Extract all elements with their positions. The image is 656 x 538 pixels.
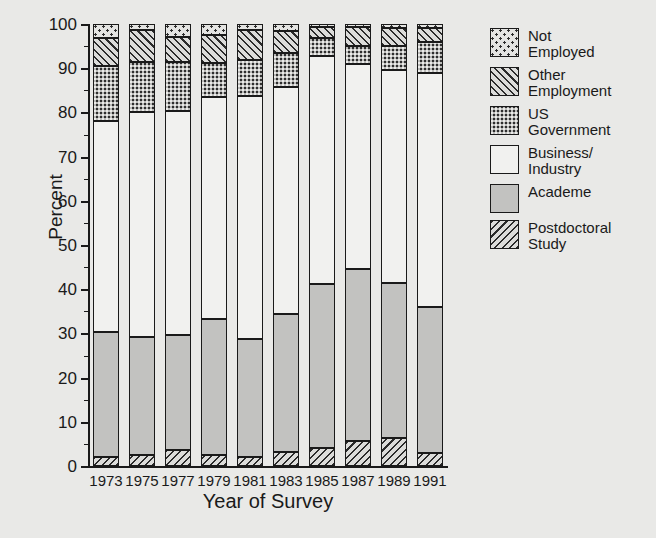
- bar-segment[interactable]: [129, 455, 155, 466]
- y-tick-major: [81, 466, 88, 468]
- bar-segment[interactable]: [381, 283, 407, 438]
- legend-label: Postdoctoral Study: [528, 220, 611, 252]
- bar-segment[interactable]: [417, 73, 443, 307]
- y-tick-major: [81, 201, 88, 203]
- legend-item[interactable]: Other Employment: [490, 67, 650, 99]
- bar-segment[interactable]: [345, 441, 371, 466]
- bar-segment[interactable]: [309, 27, 335, 38]
- bar-segment[interactable]: [129, 112, 155, 337]
- bar-segment[interactable]: [201, 319, 227, 456]
- bar-segment[interactable]: [237, 24, 263, 30]
- y-tick-label: 10: [58, 413, 77, 430]
- legend-label: Business/ Industry: [528, 145, 593, 177]
- bar-1975[interactable]: [129, 24, 155, 466]
- bar-segment[interactable]: [417, 307, 443, 453]
- y-tick-label: 0: [68, 458, 77, 475]
- legend-swatch-solid-gray: [490, 184, 519, 213]
- bar-segment[interactable]: [381, 46, 407, 70]
- bar-1991[interactable]: [417, 24, 443, 466]
- legend-label: Academe: [528, 184, 591, 200]
- bar-segment[interactable]: [201, 35, 227, 63]
- legend-item[interactable]: Academe: [490, 184, 650, 213]
- bar-segment[interactable]: [93, 66, 119, 121]
- legend-item[interactable]: Postdoctoral Study: [490, 220, 650, 252]
- legend-swatch-empty-white: [490, 145, 519, 174]
- bar-segment[interactable]: [309, 448, 335, 466]
- y-tick-major: [81, 378, 88, 380]
- bar-1983[interactable]: [273, 24, 299, 466]
- y-tick-label: 20: [58, 369, 77, 386]
- legend-swatch-diagonal-hatch-backward: [490, 220, 519, 249]
- bar-segment[interactable]: [93, 332, 119, 457]
- bar-segment[interactable]: [345, 24, 371, 27]
- bar-segment[interactable]: [201, 455, 227, 466]
- bar-1985[interactable]: [309, 24, 335, 466]
- bar-segment[interactable]: [93, 121, 119, 332]
- bar-segment[interactable]: [273, 87, 299, 315]
- y-tick-major: [81, 422, 88, 424]
- bar-segment[interactable]: [273, 314, 299, 451]
- bar-segment[interactable]: [93, 457, 119, 466]
- bar-segment[interactable]: [237, 30, 263, 60]
- bar-segment[interactable]: [273, 24, 299, 31]
- bar-1989[interactable]: [381, 24, 407, 466]
- bar-1977[interactable]: [165, 24, 191, 466]
- bar-segment[interactable]: [237, 60, 263, 95]
- legend-item[interactable]: US Government: [490, 106, 650, 138]
- bar-segment[interactable]: [345, 27, 371, 46]
- bar-segment[interactable]: [165, 335, 191, 450]
- legend-item[interactable]: Business/ Industry: [490, 145, 650, 177]
- bar-segment[interactable]: [381, 28, 407, 46]
- bar-segment[interactable]: [201, 63, 227, 97]
- legend-label: Not Employed: [528, 28, 595, 60]
- bar-1973[interactable]: [93, 24, 119, 466]
- y-tick-label: 30: [58, 325, 77, 342]
- bar-segment[interactable]: [165, 450, 191, 466]
- bar-segment[interactable]: [165, 111, 191, 336]
- y-tick-major: [81, 24, 88, 26]
- bar-segment[interactable]: [417, 42, 443, 73]
- bar-segment[interactable]: [417, 24, 443, 28]
- y-tick-label: 70: [58, 148, 77, 165]
- bar-segment[interactable]: [345, 64, 371, 269]
- bar-segment[interactable]: [201, 24, 227, 35]
- bar-segment[interactable]: [93, 38, 119, 66]
- bar-segment[interactable]: [273, 53, 299, 87]
- bar-segment[interactable]: [309, 284, 335, 448]
- bar-segment[interactable]: [381, 438, 407, 466]
- bar-segment[interactable]: [417, 453, 443, 466]
- bar-1979[interactable]: [201, 24, 227, 466]
- bar-segment[interactable]: [273, 31, 299, 53]
- legend-item[interactable]: Not Employed: [490, 28, 650, 60]
- y-tick-major: [81, 68, 88, 70]
- bar-segment[interactable]: [417, 28, 443, 42]
- bar-segment[interactable]: [309, 24, 335, 27]
- bar-segment[interactable]: [273, 452, 299, 466]
- bar-segment[interactable]: [129, 24, 155, 30]
- y-tick-major: [81, 245, 88, 247]
- legend-label: US Government: [528, 106, 611, 138]
- bar-segment[interactable]: [381, 24, 407, 28]
- bar-segment[interactable]: [237, 339, 263, 457]
- bar-segment[interactable]: [309, 56, 335, 284]
- bar-segment[interactable]: [237, 96, 263, 339]
- bar-segment[interactable]: [165, 37, 191, 62]
- bar-segment[interactable]: [165, 24, 191, 37]
- bar-segment[interactable]: [93, 24, 119, 38]
- bar-segment[interactable]: [345, 269, 371, 441]
- y-tick-major: [81, 112, 88, 114]
- y-tick-label: 60: [58, 192, 77, 209]
- bar-segment[interactable]: [201, 97, 227, 319]
- bar-segment[interactable]: [129, 30, 155, 63]
- bar-segment[interactable]: [381, 70, 407, 283]
- y-tick-label: 100: [49, 16, 77, 33]
- bar-1981[interactable]: [237, 24, 263, 466]
- bar-segment[interactable]: [129, 62, 155, 112]
- bar-1987[interactable]: [345, 24, 371, 466]
- legend: Not EmployedOther EmploymentUS Governmen…: [490, 28, 650, 259]
- bar-segment[interactable]: [129, 337, 155, 455]
- bar-segment[interactable]: [165, 62, 191, 111]
- bar-segment[interactable]: [237, 457, 263, 466]
- bar-segment[interactable]: [345, 46, 371, 64]
- bar-segment[interactable]: [309, 38, 335, 56]
